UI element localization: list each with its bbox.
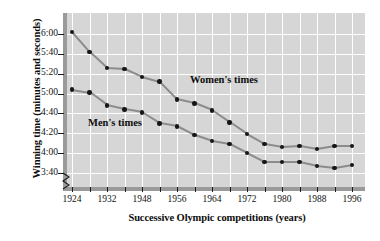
data-point: [105, 103, 109, 107]
data-point: [122, 107, 126, 111]
data-point: [140, 110, 144, 114]
data-point: [105, 66, 109, 70]
series-label-mens: Men's times: [88, 117, 142, 128]
x-axis-tick: [247, 187, 248, 192]
data-point: [280, 145, 284, 149]
data-point: [297, 144, 301, 148]
data-point: [350, 163, 354, 167]
data-point: [280, 160, 284, 164]
data-point: [122, 67, 126, 71]
y-axis-tick-label: 5:00: [24, 87, 58, 97]
x-axis-tick: [300, 187, 301, 192]
y-axis-tick: [58, 133, 64, 134]
x-axis-tick-label: 1964: [192, 194, 232, 204]
data-point: [210, 139, 214, 143]
x-axis-tick: [230, 187, 231, 192]
data-point: [87, 90, 91, 94]
y-axis-tick-label: 5:20: [24, 67, 58, 77]
data-point: [332, 166, 336, 170]
data-point: [157, 121, 161, 125]
data-point: [192, 101, 196, 105]
data-point: [227, 120, 231, 124]
x-axis-tick-label: 1932: [87, 194, 127, 204]
data-point: [87, 50, 91, 54]
x-axis-tick: [335, 187, 336, 192]
y-axis-tick-label: 4:20: [24, 127, 58, 137]
data-point: [315, 147, 319, 151]
x-axis-tick-label: 1956: [157, 194, 197, 204]
x-axis-tick: [142, 187, 143, 192]
x-axis-tick: [72, 187, 73, 192]
data-point: [315, 164, 319, 168]
data-point: [140, 75, 144, 79]
y-axis-tick-label: 5:40: [24, 47, 58, 57]
y-axis-tick: [58, 54, 64, 55]
x-axis-tick-label: 1996: [332, 194, 372, 204]
x-axis-tick: [177, 187, 178, 192]
data-point: [350, 144, 354, 148]
x-axis-tick-label: 1988: [297, 194, 337, 204]
x-axis-tick: [265, 187, 266, 192]
y-axis-tick: [58, 153, 64, 154]
data-point: [157, 79, 161, 83]
data-point: [175, 124, 179, 128]
y-axis-tick: [58, 74, 64, 75]
data-point: [262, 160, 266, 164]
y-axis-tick: [58, 173, 64, 174]
x-axis-tick: [212, 187, 213, 192]
chart-container: Winning time (minutes and seconds) Succe…: [0, 0, 380, 241]
data-point: [297, 160, 301, 164]
y-axis-tick-label: 4:00: [24, 147, 58, 157]
y-axis-tick: [58, 113, 64, 114]
x-axis-tick-label: 1980: [262, 194, 302, 204]
y-axis-tick-label: 3:40: [24, 167, 58, 177]
x-axis-tick: [125, 187, 126, 192]
data-point: [262, 142, 266, 146]
x-axis-tick: [352, 187, 353, 192]
series-label-womens: Women's times: [190, 74, 258, 85]
x-axis-tick: [282, 187, 283, 192]
x-axis-tick-label: 1924: [52, 194, 92, 204]
y-axis-tick: [58, 34, 64, 35]
x-axis-tick-label: 1972: [227, 194, 267, 204]
data-point: [175, 97, 179, 101]
data-point: [210, 108, 214, 112]
data-point: [70, 87, 74, 91]
y-axis-tick-label: 6:00: [24, 28, 58, 38]
y-axis-tick-label: 4:40: [24, 107, 58, 117]
x-axis-tick: [90, 187, 91, 192]
x-axis-tick: [195, 187, 196, 192]
x-axis-tick: [317, 187, 318, 192]
x-axis-tick-label: 1948: [122, 194, 162, 204]
x-axis-tick: [107, 187, 108, 192]
data-point: [332, 144, 336, 148]
x-axis-tick: [160, 187, 161, 192]
y-axis-tick: [58, 94, 64, 95]
